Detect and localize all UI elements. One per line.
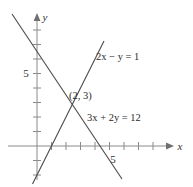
line-3x-plus-2y-equals-12 [12, 14, 122, 179]
y-axis-label: y [42, 11, 48, 23]
x-axis-label: x [177, 140, 183, 152]
equation-label-line2: 3x + 2y = 12 [87, 112, 141, 123]
equation-label-line1: 2x − y = 1 [96, 51, 139, 62]
plotted-lines-group [12, 14, 122, 184]
x-axis-tick-label-5: 5 [110, 153, 116, 165]
y-axis-tick-label-5: 5 [23, 67, 29, 79]
y-axis-arrow-icon [34, 13, 41, 21]
x-axis-arrow-icon [166, 143, 174, 150]
intersection-point-label: (2, 3) [69, 90, 92, 102]
graph-figure: x y 5 5 2x − y = 1 3x + 2y = 12 (2, 3) [0, 0, 193, 187]
coordinate-plane: x y 5 5 2x − y = 1 3x + 2y = 12 (2, 3) [0, 0, 193, 187]
